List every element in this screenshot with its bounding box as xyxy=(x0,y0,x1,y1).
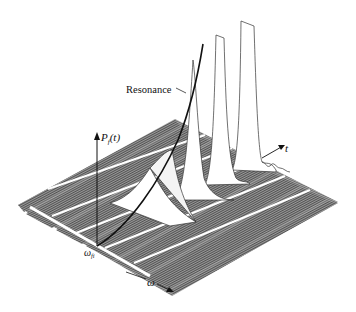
resonance-leader xyxy=(176,88,186,93)
resonance-label: Resonance xyxy=(126,84,172,95)
time-axis-label: t xyxy=(285,142,289,154)
floor xyxy=(18,119,338,296)
waterfall-figure: Resonance Pf(t) t ωfi ω xyxy=(0,0,356,312)
vertical-axis-arrow-icon xyxy=(94,132,100,140)
vertical-axis-label: Pf(t) xyxy=(100,131,120,146)
time-axis-arrow-icon xyxy=(278,145,285,150)
peak-4 xyxy=(232,21,276,172)
frequency-axis-label: ω xyxy=(147,276,155,288)
